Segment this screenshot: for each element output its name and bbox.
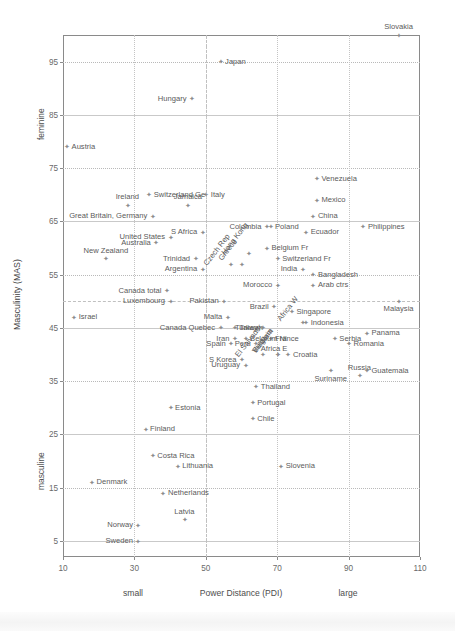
data-point-label: Great Britain, Germany (69, 212, 147, 220)
gridline-horizontal (63, 381, 420, 382)
data-point-marker (303, 230, 308, 235)
data-point-marker (103, 256, 108, 261)
data-point-marker (175, 464, 180, 469)
data-point-label: Panama (371, 329, 399, 337)
data-point-marker (221, 299, 226, 304)
data-point-marker (146, 192, 151, 197)
y-tick-label: 65 (39, 217, 58, 226)
data-point-marker (168, 299, 173, 304)
data-point-label: Lithuania (182, 462, 213, 470)
data-point-label: Malaysia (384, 305, 414, 313)
data-point-label: Finland (150, 425, 175, 433)
x-axis-low-label: small (123, 588, 143, 598)
data-point-label: Mexico (321, 196, 345, 204)
y-tick-label: 5 (39, 537, 58, 546)
data-point-label: Guatemala (371, 367, 408, 375)
data-point-label: Turkey (235, 324, 258, 332)
x-tick-label: 50 (201, 564, 210, 573)
data-point-marker (160, 491, 165, 496)
data-point-label: Iran (216, 335, 229, 343)
data-point-label: Singapore (296, 308, 331, 316)
data-point-label: Philippines (368, 223, 405, 231)
data-point-marker (185, 203, 190, 208)
x-tick-mark (349, 557, 350, 560)
data-point-marker (275, 256, 280, 261)
data-point-marker (246, 251, 251, 256)
data-point-marker (289, 309, 294, 314)
data-point-label: Belgium Fr (271, 244, 308, 252)
data-point-label: Bangladesh (318, 271, 358, 279)
data-point-label: Austria (72, 143, 96, 151)
data-point-marker (164, 288, 169, 293)
y-axis-low-label: feminine (36, 108, 46, 140)
data-point-marker (168, 405, 173, 410)
data-point-label: United States (120, 233, 166, 241)
data-point-marker (243, 336, 248, 341)
data-point-label: India (281, 265, 297, 273)
data-point-marker (310, 272, 315, 277)
data-point-label: Netherlands (168, 489, 209, 497)
y-tick-mark (60, 275, 63, 276)
gridline-midline-mas (63, 301, 420, 302)
x-tick-label: 90 (344, 564, 353, 573)
data-point-marker (364, 368, 369, 373)
x-tick-mark (420, 557, 421, 560)
y-axis-high-label: masculine (36, 452, 46, 490)
gridline-horizontal (63, 488, 420, 489)
data-point-label: Latvia (174, 508, 194, 516)
data-point-marker (328, 368, 333, 373)
y-tick-label: 25 (39, 430, 58, 439)
data-point-label: Morocco (243, 281, 272, 289)
data-point-marker (150, 453, 155, 458)
y-tick-label: 35 (39, 377, 58, 386)
data-point-marker (193, 256, 198, 261)
data-point-label: Malta (204, 313, 223, 321)
data-point-marker (135, 523, 140, 528)
y-tick-label: 45 (39, 323, 58, 332)
data-point-label: Sweden (106, 537, 133, 545)
data-point-label: Canada Quebec (160, 324, 215, 332)
data-point-marker (189, 96, 194, 101)
data-point-marker (360, 224, 365, 229)
data-point-label: Poland (275, 223, 299, 231)
data-point-label: Norway (107, 521, 133, 529)
data-point-marker (310, 214, 315, 219)
data-point-label: Colombia (229, 223, 261, 231)
data-point-marker (314, 176, 319, 181)
data-point-marker (150, 214, 155, 219)
y-tick-mark (60, 381, 63, 382)
data-point-label: Switzerland Fr (282, 255, 331, 263)
data-point-marker (300, 267, 305, 272)
data-point-marker (253, 384, 258, 389)
y-tick-mark (60, 168, 63, 169)
data-point-label: Chile (257, 415, 274, 423)
data-point-label: Switzerland Ge (154, 191, 206, 199)
gridline-horizontal (63, 275, 420, 276)
data-point-label: Ecuador (311, 228, 339, 236)
data-point-marker (250, 400, 255, 405)
data-point-marker (275, 283, 280, 288)
data-point-label: Costa Rica (157, 452, 194, 460)
data-point-marker (243, 363, 248, 368)
data-point-marker (64, 144, 69, 149)
y-tick-mark (60, 488, 63, 489)
data-point-marker (271, 304, 276, 309)
data-point-label: Suriname (315, 375, 348, 383)
y-tick-mark (60, 221, 63, 222)
data-point-label: Slovakia (384, 23, 413, 31)
data-point-marker (332, 336, 337, 341)
data-point-label: Pakistan (190, 297, 219, 305)
data-point-label: Canada total (118, 287, 161, 295)
y-tick-mark (60, 62, 63, 63)
data-point-marker (200, 267, 205, 272)
data-point-label: Serbia (339, 335, 361, 343)
data-point-marker (268, 224, 273, 229)
y-tick-label: 55 (39, 270, 58, 279)
data-point-marker (364, 331, 369, 336)
y-tick-label: 75 (39, 164, 58, 173)
data-point-label: Hungary (158, 95, 187, 103)
gridline-vertical (349, 35, 350, 557)
data-point-label: Italy (211, 191, 225, 199)
data-point-label: Venezuela (321, 175, 356, 183)
x-tick-mark (206, 557, 207, 560)
